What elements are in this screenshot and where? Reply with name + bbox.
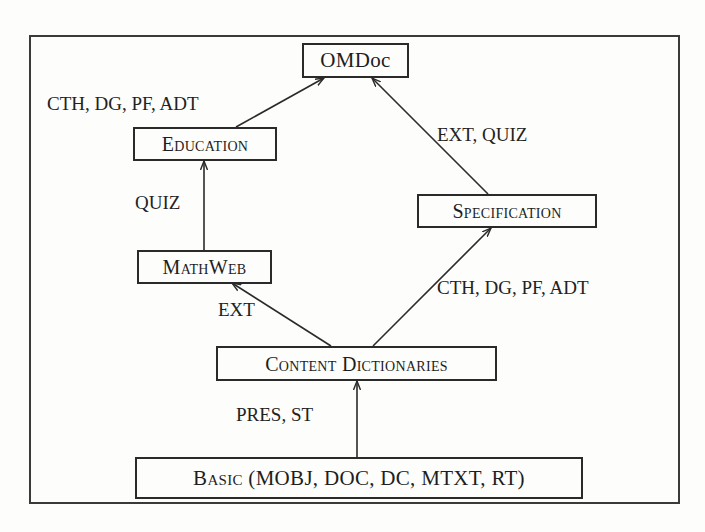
node-basic-label-sc: Basic bbox=[193, 468, 243, 489]
node-mathweb-label: MathWeb bbox=[163, 257, 247, 277]
node-content-dictionaries-label: Content Dictionaries bbox=[265, 354, 448, 374]
node-omdoc: OMDoc bbox=[302, 43, 409, 78]
edge-label-basic-to-cd: PRES, ST bbox=[236, 405, 313, 424]
edge-label-cd-to-specification: CTH, DG, PF, ADT bbox=[437, 278, 589, 297]
node-basic-label-modules: (MOBJ, DOC, DC, MTXT, RT) bbox=[243, 468, 525, 489]
edges-layer bbox=[0, 0, 705, 532]
node-specification: Specification bbox=[417, 194, 597, 228]
edge-label-mathweb-to-education: QUIZ bbox=[135, 193, 180, 212]
node-education: Education bbox=[133, 127, 277, 161]
diagram-canvas: OMDoc Education Specification MathWeb Co… bbox=[0, 0, 705, 532]
edge-label-specification-to-omdoc: EXT, QUIZ bbox=[437, 125, 527, 144]
node-education-label: Education bbox=[162, 134, 248, 154]
edge-education-to-omdoc bbox=[236, 78, 324, 127]
edge-label-cd-to-mathweb: EXT bbox=[218, 300, 255, 319]
node-basic: Basic (MOBJ, DOC, DC, MTXT, RT) bbox=[135, 457, 583, 499]
node-mathweb: MathWeb bbox=[137, 250, 272, 284]
edge-label-education-to-omdoc: CTH, DG, PF, ADT bbox=[47, 94, 199, 113]
node-specification-label: Specification bbox=[452, 201, 561, 221]
node-content-dictionaries: Content Dictionaries bbox=[216, 346, 497, 381]
node-omdoc-label: OMDoc bbox=[320, 50, 390, 71]
